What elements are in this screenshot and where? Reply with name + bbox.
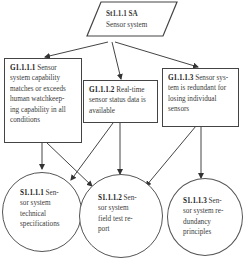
solution-text: sor system — [20, 198, 60, 208]
edge-st-g3 — [115, 42, 198, 67]
strategy-node: St1.1.1 SA Sensor system — [106, 9, 147, 31]
goal-text: available — [89, 106, 152, 116]
solution-text: Sen- — [207, 197, 222, 205]
goal-node-g1112: G1.1.1.2 Real-time sensor status data is… — [83, 80, 158, 123]
goal-text: conditions — [10, 115, 76, 125]
solution-node-s1111: S1.1.1.1 Sen- sor system technical speci… — [2, 172, 82, 252]
goal-text: ing capability in all — [10, 105, 76, 115]
solution-text: Sen- — [44, 189, 59, 197]
solution-node-s1113: S1.1.1.3 Sen- sor system re- dundancy pr… — [167, 178, 243, 256]
edge-st-g2 — [112, 42, 121, 79]
solution-id: S1.1.1.1 — [20, 189, 44, 197]
solution-node-s1112: S1.1.1.2 Sen- sor system field test re- … — [79, 174, 163, 258]
goal-text: human watchkeep- — [10, 94, 76, 104]
goal-id: G1.1.1.3 — [168, 74, 193, 82]
goal-text: sensors — [168, 104, 233, 114]
solution-text: Sen- — [122, 194, 137, 202]
solution-text: field test re- — [98, 214, 137, 224]
solution-text: specifications — [20, 219, 60, 229]
goal-text: Real-time — [114, 86, 144, 94]
goal-text: system capability — [10, 73, 76, 83]
solution-text: principles — [183, 227, 223, 237]
goal-node-g1111: G1.1.1.1 Sensor system capability matche… — [4, 58, 82, 143]
solution-text: port — [98, 224, 137, 234]
solution-text: sor system re- — [183, 206, 223, 216]
solution-text: dundancy — [183, 217, 223, 227]
solution-id: S1.1.1.2 — [98, 194, 122, 202]
solution-text: sor system — [98, 203, 137, 213]
strategy-label: Sensor system — [106, 20, 147, 31]
goal-text: matches or exceeds — [10, 84, 76, 94]
strategy-id: St1.1.1 SA — [106, 10, 138, 18]
edge-st-g1 — [45, 42, 108, 57]
goal-id: G1.1.1.2 — [89, 86, 114, 94]
goal-node-g1113: G1.1.1.3 Sensor sys- tem is redundant fo… — [162, 68, 239, 127]
goal-text: Sensor — [35, 64, 56, 72]
goal-id: G1.1.1.1 — [10, 64, 35, 72]
goal-text: losing individual — [168, 94, 233, 104]
solution-id: S1.1.1.3 — [183, 197, 207, 205]
edge-g3-s2 — [146, 126, 196, 186]
solution-text: technical — [20, 209, 60, 219]
goal-text: Sensor sys- — [193, 74, 228, 82]
goal-text: tem is redundant for — [168, 83, 233, 93]
goal-text: sensor status data is — [89, 95, 152, 105]
